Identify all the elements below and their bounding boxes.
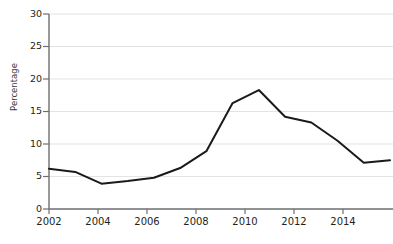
y-axis bbox=[43, 14, 49, 209]
x-tick-label-2008: 2008 bbox=[176, 216, 216, 227]
x-tick-label-2014: 2014 bbox=[323, 216, 363, 227]
x-axis bbox=[49, 209, 393, 214]
data-series-line bbox=[49, 90, 390, 184]
x-tick-label-2012: 2012 bbox=[274, 216, 314, 227]
x-tick-label-2010: 2010 bbox=[225, 216, 265, 227]
plot-area bbox=[0, 0, 393, 244]
y-gridlines bbox=[49, 14, 393, 177]
chart-figure: Percentage 30 25 20 15 10 5 0 bbox=[0, 0, 393, 244]
x-tick-label-2004: 2004 bbox=[78, 216, 118, 227]
x-tick-label-2006: 2006 bbox=[127, 216, 167, 227]
x-axis-tick-labels: 2002 2004 2006 2008 2010 2012 2014 bbox=[0, 216, 393, 232]
x-tick-label-2002: 2002 bbox=[29, 216, 69, 227]
